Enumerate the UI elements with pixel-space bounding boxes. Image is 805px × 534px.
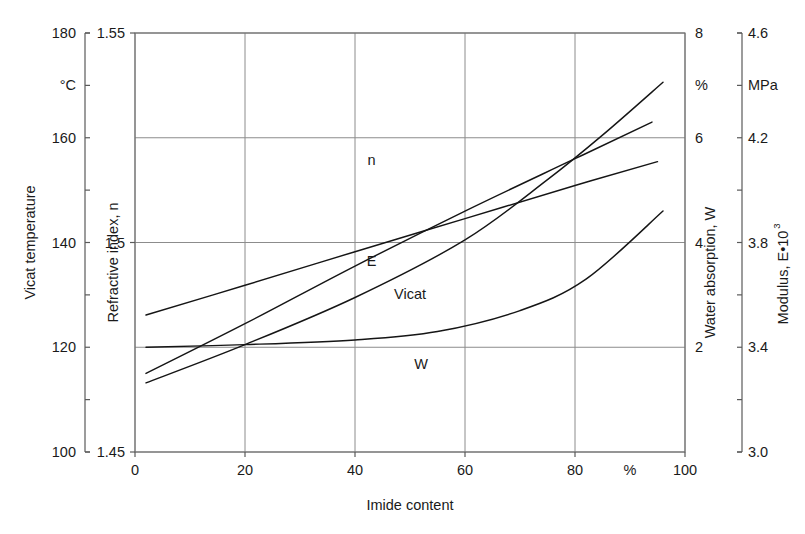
axis-vicat-temp: 100120140160°C180 xyxy=(52,25,90,460)
tick-label-vicat-temp: 100 xyxy=(52,444,76,460)
tick-label-modulus: 3.4 xyxy=(748,339,768,355)
x-axis-title: Imide content xyxy=(366,497,453,513)
grid-lines xyxy=(135,33,685,452)
series-curve-w xyxy=(146,211,663,347)
text-labels: Vicat temperatureRefractive index, nWate… xyxy=(22,152,791,372)
tick-label-modulus: 3.0 xyxy=(748,444,768,460)
axis-title-modulus-text: Modulus, E•10 xyxy=(775,231,791,325)
tick-label-x: 0 xyxy=(131,462,139,478)
axis-x: 020406080100%Imide content xyxy=(131,452,697,513)
axis-modulus: 3.03.43.84.2MPa4.6 xyxy=(737,25,779,460)
series-curve-e xyxy=(146,122,652,373)
tick-label-x: 80 xyxy=(567,462,583,478)
series-label-vicat: Vicat xyxy=(394,286,426,302)
chart-svg: 100120140160°C1801.451.51.55246%83.03.43… xyxy=(0,0,805,534)
tick-label-water-absorption: 6 xyxy=(695,130,703,146)
tick-label-modulus: 3.8 xyxy=(748,235,768,251)
series-label-e: E xyxy=(367,253,377,269)
tick-label-vicat-temp: 120 xyxy=(52,339,76,355)
tick-label-vicat-temp: °C xyxy=(60,77,76,93)
series-curve-vicat xyxy=(146,82,663,383)
axis-title-vicat-temperature: Vicat temperature xyxy=(22,185,38,299)
data-curves xyxy=(146,82,663,383)
tick-label-x: 100 xyxy=(673,462,697,478)
axis-title-refractive-index: Refractive index, n xyxy=(105,202,121,322)
axes-group: 100120140160°C1801.451.51.55246%83.03.43… xyxy=(52,25,779,513)
tick-label-vicat-temp: 140 xyxy=(52,235,76,251)
tick-label-water-absorption: 8 xyxy=(695,25,703,41)
tick-label-refractive-index: 1.45 xyxy=(97,444,125,460)
tick-label-water-absorption: 2 xyxy=(695,339,703,355)
tick-label-vicat-temp: 180 xyxy=(52,25,76,41)
x-axis-unit-label: % xyxy=(624,462,637,478)
tick-label-refractive-index: 1.55 xyxy=(97,25,125,41)
tick-label-x: 60 xyxy=(457,462,473,478)
axis-title-modulus: Modulus, E•103 xyxy=(771,223,791,324)
axis-title-water-absorption: Water absorption, W xyxy=(702,206,718,338)
tick-label-water-absorption: % xyxy=(695,77,708,93)
chart-container: 100120140160°C1801.451.51.55246%83.03.43… xyxy=(0,0,805,534)
tick-label-x: 20 xyxy=(237,462,253,478)
tick-label-vicat-temp: 160 xyxy=(52,130,76,146)
series-label-w: W xyxy=(414,356,428,372)
series-label-n: n xyxy=(367,152,375,168)
tick-label-modulus: 4.2 xyxy=(748,130,768,146)
tick-label-modulus: MPa xyxy=(748,77,779,93)
axis-title-modulus-superscript: 3 xyxy=(771,223,782,228)
tick-label-x: 40 xyxy=(347,462,363,478)
tick-label-modulus: 4.6 xyxy=(748,25,768,41)
